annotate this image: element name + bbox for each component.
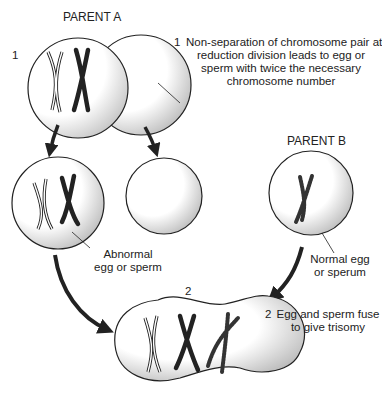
parent-a-label: PARENT A bbox=[63, 11, 121, 24]
step2-caption: Egg and sperm fuse to give trisomy bbox=[274, 308, 382, 334]
leader-line-normal bbox=[322, 233, 334, 253]
step2-number: 2 bbox=[185, 285, 191, 298]
caption-line: reduction division leads to egg or bbox=[186, 49, 376, 62]
arrow-normal-to-zygote bbox=[272, 247, 302, 298]
label-line: egg or sperm bbox=[90, 261, 166, 274]
caption-line: sperm with twice the necessary bbox=[186, 62, 376, 75]
label-line: Abnormal bbox=[90, 248, 166, 261]
empty-gamete-cell bbox=[126, 158, 202, 234]
step1-caption-number: 1 bbox=[174, 36, 180, 49]
parent-b-label: PARENT B bbox=[287, 135, 346, 148]
label-line: or sperum bbox=[305, 266, 375, 279]
parent-b-gamete-cell bbox=[269, 151, 353, 235]
step2-caption-number: 2 bbox=[265, 308, 271, 321]
step1-caption: Non-separation of chromosome pair at red… bbox=[186, 36, 376, 88]
caption-line: Non-separation of chromosome pair at bbox=[186, 36, 376, 49]
normal-gamete-label: Normal egg or sperum bbox=[305, 253, 375, 279]
abnormal-gamete-label: Abnormal egg or sperm bbox=[90, 248, 166, 274]
caption-line: chromosome number bbox=[186, 75, 376, 88]
caption-line: Egg and sperm fuse bbox=[274, 308, 382, 321]
abnormal-gamete-cell bbox=[12, 157, 104, 249]
parent-a-cell bbox=[28, 35, 191, 138]
label-line: Normal egg bbox=[305, 253, 375, 266]
step1-number: 1 bbox=[12, 49, 18, 62]
caption-line: to give trisomy bbox=[274, 321, 382, 334]
